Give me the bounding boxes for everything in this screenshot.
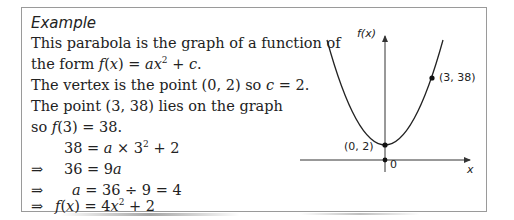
parabola-graph [0, 0, 514, 220]
vertex-label: (0, 2) [344, 140, 374, 153]
x-axis-label: x [467, 163, 474, 176]
origin-label: 0 [390, 158, 397, 171]
origin-point [383, 158, 388, 163]
point-3-38 [429, 75, 434, 80]
point-label: (3, 38) [439, 71, 476, 84]
y-axis-label: f(x) [357, 27, 376, 40]
vertex-point [382, 142, 387, 147]
